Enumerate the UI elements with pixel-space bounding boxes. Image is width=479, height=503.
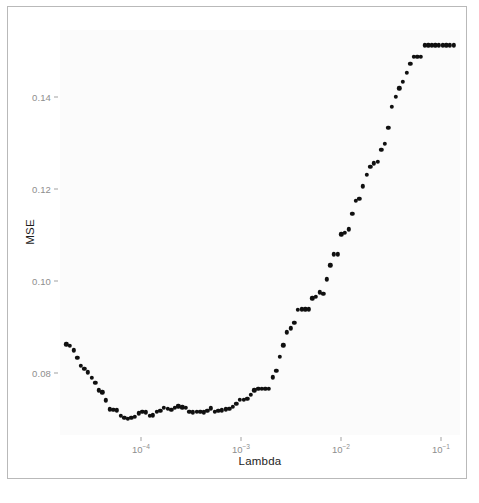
caption-strip (8, 490, 308, 501)
y-tick-mark (54, 188, 58, 189)
y-tick-label: 0.10 (32, 275, 51, 286)
y-tick-mark (54, 96, 58, 97)
x-tick-mark (440, 437, 441, 441)
plot-panel (60, 30, 460, 435)
y-tick-mark (54, 372, 58, 373)
x-tick-mark (240, 437, 241, 441)
y-tick-label: 0.12 (32, 183, 51, 194)
x-tick-label: 10−4 (132, 444, 150, 455)
y-tick-label: 0.08 (32, 367, 51, 378)
scatter-plot: 0.080.100.120.14 10−410−310−210−1 MSE La… (0, 0, 479, 503)
x-axis-title: Lambda (239, 455, 282, 467)
x-tick-mark (340, 437, 341, 441)
x-tick-mark (140, 437, 141, 441)
x-tick-label: 10−3 (232, 444, 250, 455)
x-tick-label: 10−2 (332, 444, 350, 455)
x-tick-label: 10−1 (432, 444, 450, 455)
y-tick-mark (54, 280, 58, 281)
y-axis-title: MSE (24, 219, 36, 245)
y-tick-label: 0.14 (32, 91, 51, 102)
